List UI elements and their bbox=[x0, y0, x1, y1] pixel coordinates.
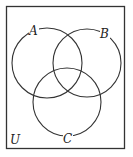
venn-diagram: A B C U bbox=[0, 0, 133, 157]
set-a-label: A bbox=[28, 24, 38, 38]
set-a-circle bbox=[12, 28, 82, 98]
universe-label: U bbox=[10, 133, 21, 147]
set-c-circle bbox=[33, 68, 101, 136]
set-c-label: C bbox=[63, 132, 72, 146]
set-b-circle bbox=[53, 29, 121, 97]
set-b-label: B bbox=[99, 27, 109, 41]
